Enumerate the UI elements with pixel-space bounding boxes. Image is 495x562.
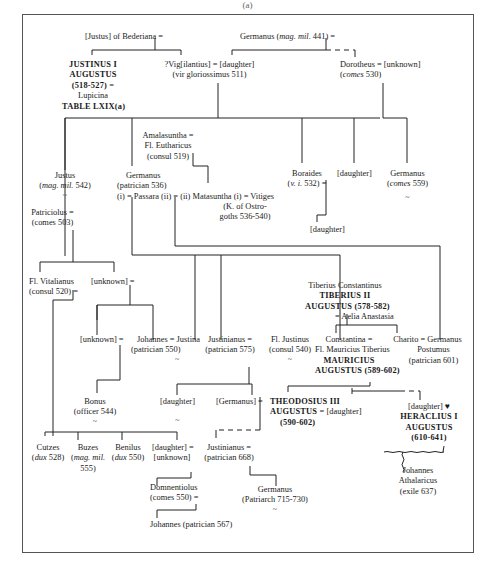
person-germanus-536: Germanus (patrician 536) (i) = Passara (… (117, 171, 274, 202)
person-cutzes: Cutzes (dux 528) (30, 443, 66, 464)
person-germanus-bracketed: [Germanus] = (216, 397, 263, 407)
person-unknown-2: [unknown] = (80, 335, 124, 345)
person-charito-germanus: Charito = Germanus Postumus (patrician 6… (390, 335, 465, 366)
person-dorotheus: Dorotheus = [unknown] (comes 530) (340, 60, 421, 81)
person-boraides: Boraides (v. i. 532) = (287, 169, 327, 190)
person-theodosius-iii: THEODOSIUS III AUGUSTUS = [daughter] (59… (270, 397, 361, 428)
person-johannes-athalaricus: Johannes Athalaricus (exile 637) (393, 466, 443, 497)
person-germanus-441: Germanus (mag. mil. 441) = (240, 32, 335, 42)
person-justus-bederiana: [Justus] of Bederiana = (85, 32, 163, 42)
person-domnentiolus: Domnentiolus (comes 550) = (150, 483, 198, 504)
person-daughter-justinianus: [daughter] ~ (160, 397, 195, 425)
person-amalasuntha: Amalasuntha = Fl. Eutharicus (consul 519… (140, 131, 196, 162)
person-vitalianus: Fl. Vitalianus (consul 520) = (29, 277, 78, 298)
person-unknown-1: [unknown] = (91, 277, 135, 287)
person-constantina-mauricius: Constantina = Fl. Mauricius Tiberius MAU… (315, 335, 383, 377)
person-justinianus-575: Justinianus = (patrician 575) (205, 335, 255, 356)
person-benilus: Benilus (dux 550) (110, 443, 146, 464)
person-daughter-top: [daughter] (337, 169, 372, 179)
person-daughter-unknown: [daughter] = [unknown] (152, 443, 192, 464)
person-justinus-i: JUSTINUS I AUGUSTUS (518-527) = Lupicina… (62, 60, 124, 112)
vitiges-kingdom-note: (K. of Ostro- goths 536-540) (215, 202, 275, 223)
person-daughter-of-boraides: [daughter] (310, 225, 345, 235)
person-germanus-559: Germanus (comes 559) ~ (385, 169, 430, 202)
person-heraclius-i: [daughter] ♥ HERACLIUS I AUGUSTUS (610-6… (400, 402, 458, 444)
person-johannes-550: Johannes = Justina (patrician 550) ~ (131, 335, 200, 364)
person-vigilantius: ?Vig[ilantius] = [daughter] (vir glorios… (152, 60, 267, 81)
person-justus-542: Justus (mag. mil. 542) ~ (35, 171, 95, 200)
person-bonus: Bonus (officer 544) ~ (70, 397, 120, 426)
person-buzes: Buzes (mag. mil. 555) (70, 443, 106, 474)
person-germanus-patriarch: Germanus (Patriarch 715-730) ~ (240, 485, 310, 514)
person-tiberius-ii: Tiberius Constantinus TIBERIUS II AUGUST… (305, 281, 385, 323)
person-justinianus-668: Justinianus = (patrician 668) (204, 443, 254, 464)
person-johannes-567: Johannes (patrician 567) (150, 520, 232, 530)
person-justinus-540: Fl. Justinus (consul 540) ~ (266, 335, 314, 364)
person-patriciolus: Patriciolus = (comes 503) (30, 208, 75, 229)
